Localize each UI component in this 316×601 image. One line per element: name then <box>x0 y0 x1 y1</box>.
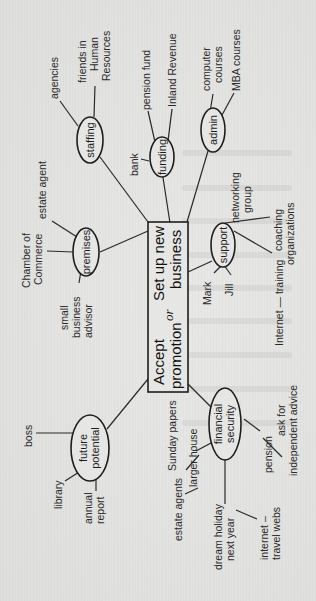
central-line-4: business <box>167 230 184 289</box>
leaf-mark: Mark <box>201 281 213 305</box>
central-topic: Accept promotion or Set up new business <box>148 222 188 392</box>
node-admin-label: admin <box>207 115 219 145</box>
leaf-bank: bank <box>128 152 140 176</box>
leaf-holiday-2: next year <box>224 517 236 561</box>
node-future-potential-label-2: potential <box>89 427 101 469</box>
leaf-coaching-2: organizations <box>284 203 296 265</box>
leaf-annual-report-2: report <box>94 496 106 524</box>
leaf-holiday-1: dream holiday <box>212 503 224 570</box>
leaf-sunday-papers: Sunday papers <box>166 400 178 471</box>
leaf-advice-2: independent advice <box>287 385 299 476</box>
node-funding-label: funding <box>156 139 168 175</box>
leaf-advisor-1: small <box>58 305 70 330</box>
leaf-advisor-2: business <box>70 297 82 338</box>
leaf-mba-courses: MBA courses <box>230 29 242 91</box>
leaf-coaching-1: coaching <box>272 209 284 251</box>
leaf-inland-revenue: Inland Revenue <box>166 33 178 107</box>
leaf-computer-courses-1: computer <box>200 47 212 91</box>
leaf-computer-courses-2: courses <box>212 46 224 83</box>
branch-admin: admin computer courses MBA courses <box>200 29 242 152</box>
leaf-advisor-3: advisor <box>82 304 94 338</box>
branch-support: support networking group coaching organi… <box>201 172 296 346</box>
central-line-3: Set up new <box>150 226 167 301</box>
central-or: or <box>161 309 176 322</box>
leaf-library: library <box>52 480 64 509</box>
leaf-travel-1: internet – <box>258 516 270 560</box>
node-support-label: support <box>217 227 229 264</box>
central-line-2: promotion <box>167 322 184 389</box>
node-financial-security-label-1: financial <box>212 404 224 444</box>
leaf-agencies: agencies <box>48 57 60 99</box>
leaf-annual-report-1: annual <box>82 492 94 524</box>
node-premises-label: premises <box>80 229 92 274</box>
branch-financial-security: financial security larger house Sunday p… <box>166 385 299 570</box>
leaf-jill: Jill <box>223 284 235 296</box>
leaf-advice-1: ask for <box>275 404 287 436</box>
leaf-pension-fund: pension fund <box>140 50 152 110</box>
branch-future-potential: future potential boss library annual rep… <box>22 415 109 524</box>
node-staffing-label: staffing <box>84 122 96 157</box>
leaf-estate-agents: estate agents <box>172 478 184 541</box>
leaf-friends-hr-2: Human <box>88 37 100 71</box>
branch-staffing: staffing agencies friends in Human Resou… <box>48 31 112 163</box>
leaf-internet-training: Internet — training <box>273 259 285 346</box>
mind-map: Accept promotion or Set up new business … <box>0 0 316 601</box>
node-financial-security-label-2: security <box>224 405 236 443</box>
leaf-chamber-1: Chamber of <box>20 233 32 288</box>
central-line-1: Accept <box>150 338 167 385</box>
leaf-networking-1: networking <box>229 172 241 223</box>
branch-premises: premises estate agent Chamber of Commerc… <box>20 161 99 338</box>
leaf-networking-2: group <box>241 186 253 213</box>
leaf-estate-agent: estate agent <box>36 161 48 219</box>
leaf-friends-hr-3: Resources <box>100 31 112 81</box>
scanned-page: Accept promotion or Set up new business … <box>0 0 316 601</box>
leaf-friends-hr-1: friends in <box>76 40 88 83</box>
branch-funding: funding bank pension fund Inland Revenue <box>128 33 178 177</box>
leaf-chamber-2: Commerce <box>32 233 44 285</box>
leaf-travel-2: travel webs <box>270 507 282 560</box>
leaf-pension: pension <box>262 436 274 473</box>
leaf-boss: boss <box>22 425 34 447</box>
leaf-larger-house: larger house <box>187 428 199 487</box>
node-future-potential-label-1: future <box>77 434 89 462</box>
